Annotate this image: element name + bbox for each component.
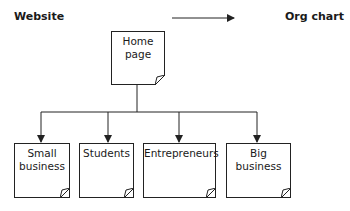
website-label: Website bbox=[14, 10, 64, 23]
node-big-business: Big business bbox=[226, 143, 291, 198]
node-entrepreneurs: Entrepreneurs bbox=[143, 143, 216, 198]
org-chart-label: Org chart bbox=[285, 10, 344, 23]
node-label: business bbox=[15, 160, 69, 173]
node-label: Small bbox=[15, 147, 69, 160]
page-fold-icon bbox=[60, 188, 70, 198]
page-fold-icon bbox=[155, 75, 165, 85]
page-fold-icon bbox=[281, 188, 291, 198]
node-label: Entrepreneurs bbox=[144, 147, 215, 160]
node-home-page: Home page bbox=[111, 31, 165, 85]
node-label: Home bbox=[112, 35, 164, 48]
node-small-business: Small business bbox=[14, 143, 70, 198]
node-label: Students bbox=[80, 147, 133, 160]
page-fold-icon bbox=[206, 188, 216, 198]
page-fold-icon bbox=[124, 188, 134, 198]
node-students: Students bbox=[79, 143, 134, 198]
node-label: Big business bbox=[227, 147, 290, 173]
node-label: page bbox=[112, 48, 164, 61]
